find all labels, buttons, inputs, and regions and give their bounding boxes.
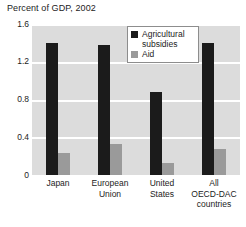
y-axis-tick-label: 0.4 (17, 133, 29, 142)
y-axis-tick-label: 0.8 (17, 95, 29, 104)
x-axis-category-label: Japan (32, 178, 84, 189)
bar-group (32, 24, 84, 175)
legend-swatch-subsidies-icon (131, 31, 138, 38)
x-axis-label-line: United (136, 178, 188, 189)
bar-aid (162, 163, 174, 175)
legend-item: Aid (131, 49, 194, 59)
x-axis-label-line: All (188, 178, 240, 189)
legend-swatch-aid-icon (131, 51, 138, 58)
bar-agricultural-subsidies (202, 43, 214, 175)
y-axis: 1.61.20.80.40 (0, 0, 32, 227)
bar-aid (58, 153, 70, 175)
bar-chart: Percent of GDP, 2002 1.61.20.80.40 Agric… (0, 0, 246, 227)
legend-item-label: Aid (142, 49, 154, 59)
bar-aid (110, 144, 122, 175)
bar-agricultural-subsidies (46, 43, 58, 175)
x-axis-label-line: countries (188, 199, 240, 210)
y-axis-tick-label: 1.2 (17, 57, 29, 66)
x-axis-label-line: OECD-DAC (188, 189, 240, 200)
x-axis-label-line: Japan (32, 178, 84, 189)
bar-aid (214, 149, 226, 175)
y-axis-tick-label: 1.6 (17, 20, 29, 29)
x-axis: JapanEuropeanUnionUnitedStatesAllOECD-DA… (32, 178, 240, 226)
x-axis-category-label: UnitedStates (136, 178, 188, 199)
x-axis-label-line: Union (84, 189, 136, 200)
bar-agricultural-subsidies (98, 45, 110, 175)
x-axis-label-line: States (136, 189, 188, 200)
bar-agricultural-subsidies (150, 92, 162, 175)
legend-item: Agricultural subsidies (131, 29, 194, 49)
x-axis-category-label: AllOECD-DACcountries (188, 178, 240, 210)
legend-item-label: Agricultural subsidies (142, 29, 194, 49)
chart-legend: Agricultural subsidiesAid (127, 26, 199, 63)
y-axis-tick-label: 0 (24, 171, 29, 180)
x-axis-label-line: European (84, 178, 136, 189)
x-axis-category-label: EuropeanUnion (84, 178, 136, 199)
